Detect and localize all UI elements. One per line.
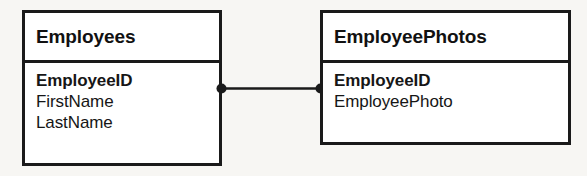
entity-box-employeephotos[interactable]: EmployeePhotos EmployeeID EmployeePhoto	[320, 10, 571, 145]
relationship-connector-one-to-one[interactable]	[216, 80, 326, 97]
er-diagram-canvas: Employees EmployeeID FirstName LastName …	[0, 0, 587, 176]
field-row: LastName	[36, 112, 219, 133]
relationship-line-svg	[216, 80, 326, 97]
entity-title-employees: Employees	[36, 27, 135, 46]
entity-field-list-employees: EmployeeID FirstName LastName	[25, 63, 219, 163]
field-row: EmployeePhoto	[334, 91, 568, 112]
field-row: FirstName	[36, 91, 219, 112]
entity-field-list-employeephotos: EmployeeID EmployeePhoto	[323, 63, 568, 142]
entity-title-employeephotos: EmployeePhotos	[334, 27, 487, 46]
entity-header-employeephotos: EmployeePhotos	[323, 13, 568, 63]
field-row-primary-key: EmployeeID	[334, 70, 568, 91]
field-row-primary-key: EmployeeID	[36, 70, 219, 91]
entity-header-employees: Employees	[25, 13, 219, 63]
entity-box-employees[interactable]: Employees EmployeeID FirstName LastName	[22, 10, 222, 166]
